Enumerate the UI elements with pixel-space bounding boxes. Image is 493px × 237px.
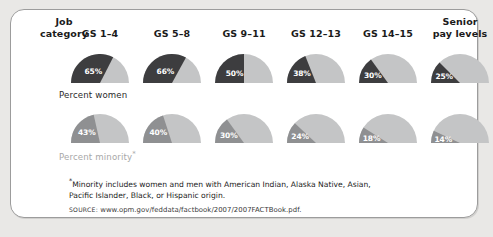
gauge-value-label: 66%: [157, 67, 175, 76]
row-label-percent-women-text: Percent women: [59, 90, 127, 100]
row-label-percent-minority-text: Percent minority: [59, 152, 132, 162]
footnote: *Minority includes women and men with Am…: [69, 176, 429, 201]
gauge-value-label: 25%: [435, 72, 453, 81]
gauge-cell: 25%: [431, 54, 489, 85]
gauge-cell: 14%: [431, 114, 489, 145]
source-label: SOURCE:: [69, 206, 98, 213]
semicircle-gauge: [215, 54, 273, 84]
gauge-value-label: 40%: [149, 128, 167, 137]
gauge-value-label: 30%: [220, 131, 238, 140]
source-line: SOURCE: www.opm.gov/feddata/factbook/200…: [69, 206, 449, 214]
gauge-value-label: 14%: [434, 135, 452, 144]
gauge-cell: 38%: [287, 54, 345, 85]
row-label-percent-women: Percent women: [59, 90, 127, 100]
gauge-cell: 40%: [143, 114, 201, 145]
gauge-cell: 24%: [287, 114, 345, 145]
gauge-value-label: 30%: [364, 71, 382, 80]
chart-card: Job category GS 1–4GS 5–8GS 9–11GS 12–13…: [10, 9, 478, 218]
gauge-cell: 50%: [215, 54, 273, 85]
source-value: www.opm.gov/feddata/factbook/2007/2007FA…: [100, 206, 301, 214]
row-label-percent-minority: Percent minority*: [59, 150, 136, 162]
gauge-value-label: 43%: [78, 128, 96, 137]
row-label-percent-minority-marker: *: [132, 150, 136, 158]
gauge-cell: 30%: [215, 114, 273, 145]
gauge-value-label: 65%: [84, 67, 102, 76]
footnote-line1: Minority includes women and men with Ame…: [72, 180, 370, 189]
gauge-value-label: 18%: [363, 134, 381, 143]
gauge-value-label: 24%: [291, 132, 309, 141]
gauge-cell: 18%: [359, 114, 417, 145]
gauge-cell: 30%: [359, 54, 417, 85]
gauge-cell: 65%: [71, 54, 129, 85]
gauge-cell: 66%: [143, 54, 201, 85]
footnote-line2: Pacific Islander, Black, or Hispanic ori…: [69, 191, 225, 200]
gauge-cell: 43%: [71, 114, 129, 145]
gauge-value-label: 50%: [226, 69, 244, 78]
gauge-value-label: 38%: [293, 69, 311, 78]
